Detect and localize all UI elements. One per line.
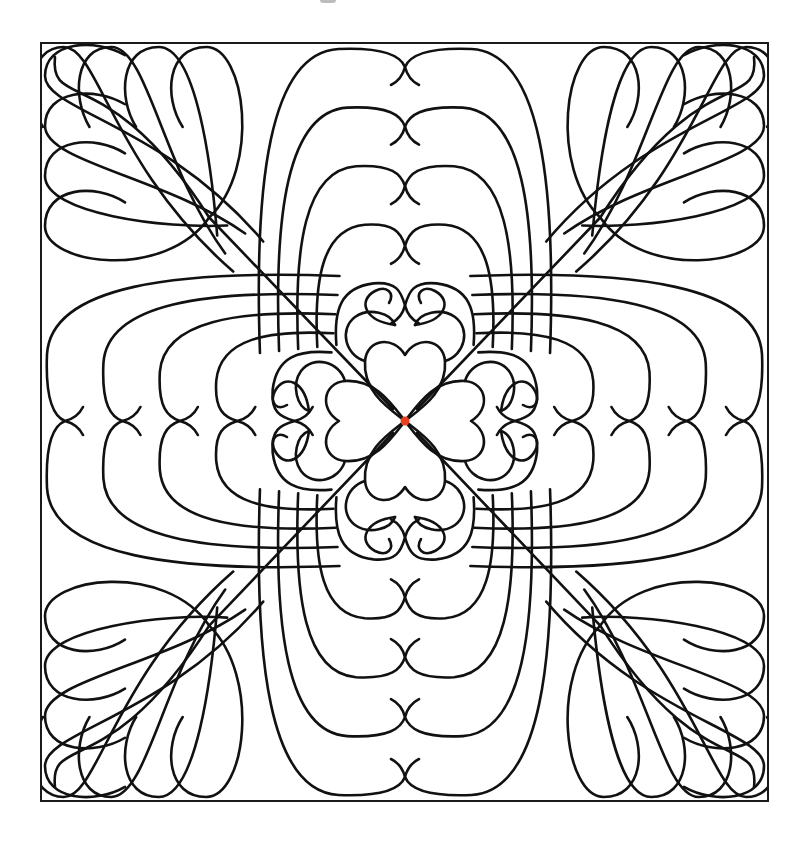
- quilt-pattern-canvas: [0, 0, 810, 844]
- center-dot: [401, 417, 410, 426]
